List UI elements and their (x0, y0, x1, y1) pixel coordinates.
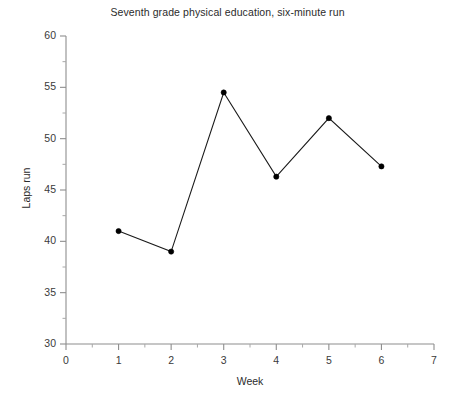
x-tick-label: 4 (263, 354, 289, 366)
y-tick-label: 35 (26, 286, 56, 298)
y-tick-label: 45 (26, 183, 56, 195)
data-point-marker (221, 90, 226, 95)
data-point-marker (116, 228, 121, 233)
y-tick-label: 40 (26, 234, 56, 246)
y-tick-label: 60 (26, 29, 56, 41)
x-tick-label: 2 (158, 354, 184, 366)
chart-figure: Seventh grade physical education, six-mi… (0, 0, 455, 400)
x-tick-label: 0 (53, 354, 79, 366)
line-chart-plot (0, 0, 455, 400)
data-point-marker (274, 174, 279, 179)
data-point-marker (379, 164, 384, 169)
series-line (119, 92, 382, 251)
x-tick-label: 7 (421, 354, 447, 366)
x-tick-label: 1 (106, 354, 132, 366)
y-tick-label: 55 (26, 80, 56, 92)
y-tick-label: 30 (26, 337, 56, 349)
data-point-marker (326, 116, 331, 121)
x-axis-title: Week (190, 375, 310, 387)
data-point-marker (169, 249, 174, 254)
y-tick-label: 50 (26, 132, 56, 144)
x-tick-label: 5 (316, 354, 342, 366)
x-tick-label: 3 (211, 354, 237, 366)
x-tick-label: 6 (368, 354, 394, 366)
